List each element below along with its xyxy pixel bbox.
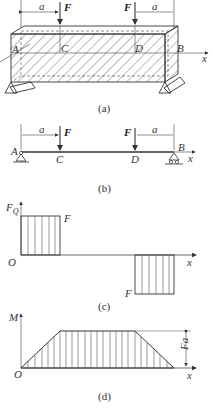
dim-a-right: a xyxy=(152,0,158,12)
figure-a-3d-beam: a a F F A C D B x (a) xyxy=(0,0,208,115)
figure-d-moment-diagram: Fa M O x (d) xyxy=(8,311,196,403)
moment-trapezoid xyxy=(21,331,174,368)
beam-end-face xyxy=(165,26,178,82)
point-c-label: C xyxy=(61,42,69,54)
point-d-label: D xyxy=(134,42,143,54)
left-support-icon xyxy=(5,82,17,93)
negative-shear-block xyxy=(135,255,174,294)
point-a-label: A xyxy=(11,43,19,55)
positive-shear-block xyxy=(21,216,60,255)
caption-c: (c) xyxy=(98,300,111,313)
x-axis-label-b: x xyxy=(187,152,193,164)
x-axis-label-c: x xyxy=(186,256,192,268)
shear-lower-value: F xyxy=(124,287,132,299)
dim-a-left: a xyxy=(39,0,45,12)
point-b-label-b: B xyxy=(178,141,185,153)
load-f-right-label: F xyxy=(123,1,132,13)
point-b-label: B xyxy=(177,42,184,54)
figure-b-beam-schematic: a a F F A C D B x (b) xyxy=(10,123,195,195)
shear-axis-label: FQ xyxy=(5,201,19,216)
point-a-label-b: A xyxy=(10,145,18,157)
moment-axis-label: M xyxy=(8,311,19,323)
point-c-label-b: C xyxy=(56,153,64,165)
roller-support-icon xyxy=(169,153,179,160)
origin-label-c: O xyxy=(8,256,16,268)
x-axis-label: x xyxy=(201,52,207,64)
beam-diagram-figure: a a F F A C D B x (a) a a xyxy=(0,0,213,414)
shear-upper-value: F xyxy=(63,212,71,224)
beam-top-face xyxy=(11,26,178,34)
moment-max-value: Fa xyxy=(178,337,190,351)
load-f-left-label: F xyxy=(63,1,72,13)
caption-b: (b) xyxy=(98,182,111,195)
x-axis-label-d: x xyxy=(186,369,192,381)
origin-label-d: O xyxy=(14,368,22,380)
figure-c-shear-diagram: FQ O x F F (c) xyxy=(5,201,196,313)
dim-a-right-b: a xyxy=(152,123,158,135)
caption-d: (d) xyxy=(98,390,111,403)
caption-a: (a) xyxy=(98,102,111,115)
load-f-right-label-b: F xyxy=(123,126,132,138)
point-d-label-b: D xyxy=(130,153,139,165)
dim-a-left-b: a xyxy=(39,123,45,135)
load-f-left-label-b: F xyxy=(63,126,72,138)
